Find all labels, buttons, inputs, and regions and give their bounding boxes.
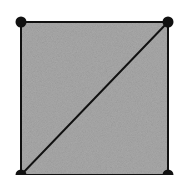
vertex-top-right	[163, 17, 174, 28]
vertex-top-left	[16, 17, 27, 28]
square-diagram	[0, 0, 184, 175]
